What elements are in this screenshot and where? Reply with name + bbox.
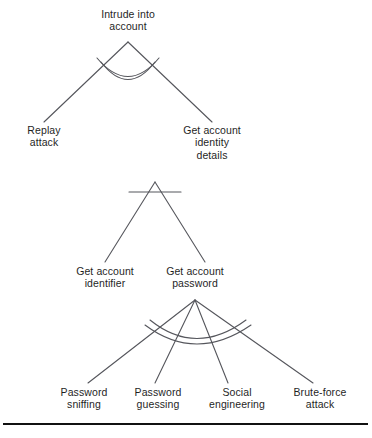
attack-tree-edges bbox=[0, 0, 372, 438]
node-get-account-identity-details: Get account identity details bbox=[160, 124, 264, 161]
edge-identity-to-password bbox=[155, 182, 205, 262]
edge-root-to-replay-attack bbox=[44, 42, 128, 122]
node-get-account-password: Get account password bbox=[143, 265, 247, 290]
node-get-account-identifier: Get account identifier bbox=[53, 265, 157, 290]
node-replay-attack: Replay attack bbox=[0, 124, 88, 149]
edge-root-to-identity-details bbox=[128, 42, 212, 122]
attack-tree-figure: Intrude into account Replay attack Get a… bbox=[0, 0, 372, 438]
node-intrude-into-account: Intrude into account bbox=[76, 8, 180, 33]
node-brute-force-attack: Brute-force attack bbox=[272, 386, 368, 411]
edge-identity-to-identifier bbox=[105, 182, 155, 262]
edge-password-to-bruteforce bbox=[195, 300, 313, 383]
footer-rule bbox=[3, 423, 368, 425]
or-arc-root-inner bbox=[97, 58, 159, 77]
edge-password-to-social bbox=[195, 300, 228, 383]
edge-password-to-guessing bbox=[155, 300, 195, 383]
